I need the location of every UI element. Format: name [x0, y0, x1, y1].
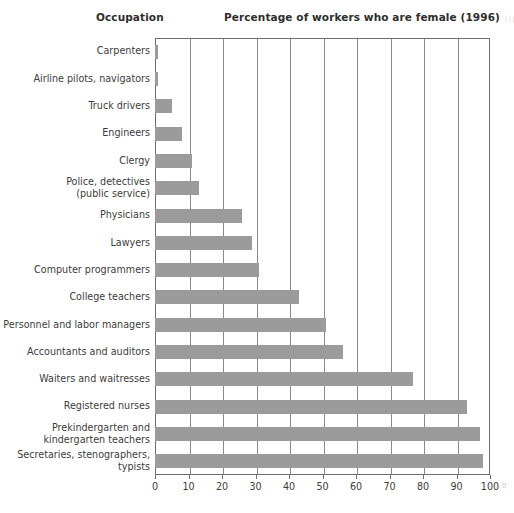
- category-label: Carpenters: [0, 45, 150, 57]
- category-label: Clergy: [0, 155, 150, 167]
- category-label: Engineers: [0, 127, 150, 139]
- x-tick-mark: [423, 475, 424, 479]
- bar: [155, 99, 172, 113]
- x-tick-mark: [356, 475, 357, 479]
- x-tick-label: 40: [283, 481, 295, 492]
- x-tick-label: 10: [182, 481, 194, 492]
- bar: [155, 318, 326, 332]
- category-label: Computer programmers: [0, 264, 150, 276]
- bar: [155, 72, 158, 86]
- bar: [155, 290, 299, 304]
- category-labels: CarpentersAirline pilots, navigatorsTruc…: [0, 38, 150, 475]
- x-tick-label: 90: [450, 481, 462, 492]
- bar: [155, 127, 182, 141]
- x-tick-label: 0: [152, 481, 158, 492]
- bar-chart-figure: Occupation Percentage of workers who are…: [0, 0, 514, 513]
- chart-title: Percentage of workers who are female (19…: [224, 11, 500, 23]
- x-tick-mark: [256, 475, 257, 479]
- category-label: Accountants and auditors: [0, 346, 150, 358]
- page-number: 0: [502, 482, 506, 490]
- page-edge-marginalia: | | | | | | | | | |: [505, 14, 514, 244]
- category-label: Truck drivers: [0, 100, 150, 112]
- x-tick-label: 30: [249, 481, 261, 492]
- x-axis: 0102030405060708090100: [155, 475, 490, 499]
- bar: [155, 400, 467, 414]
- x-tick-label: 20: [216, 481, 228, 492]
- category-label: Personnel and labor managers: [0, 319, 150, 331]
- x-tick-label: 50: [316, 481, 328, 492]
- category-label: Lawyers: [0, 237, 150, 249]
- category-label: Registered nurses: [0, 400, 150, 412]
- category-label: Police, detectives (public service): [0, 176, 150, 199]
- x-tick-mark: [323, 475, 324, 479]
- x-tick-mark: [490, 475, 491, 479]
- bar: [155, 427, 480, 441]
- x-tick-mark: [457, 475, 458, 479]
- bar: [155, 345, 343, 359]
- category-label: Prekindergarten and kindergarten teacher…: [0, 422, 150, 445]
- category-label: Airline pilots, navigators: [0, 73, 150, 85]
- x-tick-mark: [155, 475, 156, 479]
- occupation-column-heading: Occupation: [96, 11, 164, 23]
- x-tick-mark: [222, 475, 223, 479]
- x-tick-label: 60: [350, 481, 362, 492]
- bar: [155, 209, 242, 223]
- bar: [155, 263, 259, 277]
- category-label: Physicians: [0, 209, 150, 221]
- bar: [155, 236, 252, 250]
- bar: [155, 181, 199, 195]
- x-tick-label: 70: [383, 481, 395, 492]
- x-tick-label: 80: [417, 481, 429, 492]
- category-label: College teachers: [0, 291, 150, 303]
- bar: [155, 454, 483, 468]
- bar: [155, 154, 192, 168]
- x-tick-mark: [189, 475, 190, 479]
- category-label: Secretaries, stenographers, typists: [0, 449, 150, 472]
- x-tick-mark: [390, 475, 391, 479]
- x-tick-mark: [289, 475, 290, 479]
- x-tick-label: 100: [481, 481, 499, 492]
- bar: [155, 372, 413, 386]
- bar: [155, 45, 158, 59]
- bars-layer: [155, 38, 490, 475]
- category-label: Waiters and waitresses: [0, 373, 150, 385]
